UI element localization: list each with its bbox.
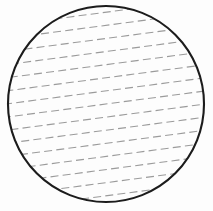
hatched-circle-figure xyxy=(0,0,213,211)
figure-background xyxy=(0,0,213,211)
figure-container xyxy=(0,0,213,211)
